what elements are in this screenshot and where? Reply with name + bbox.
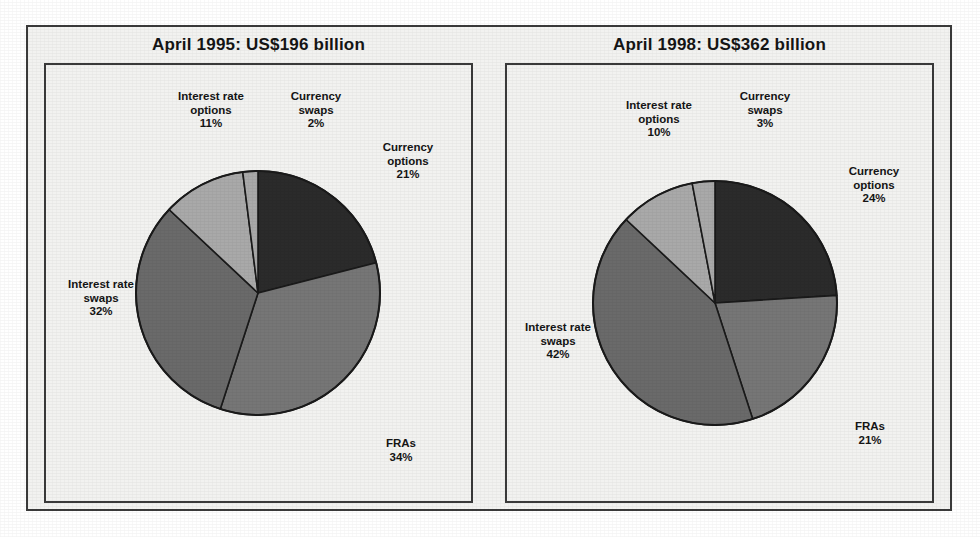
outer-frame: April 1995: US$196 billion Interest rate… bbox=[26, 25, 952, 511]
pie-label-interest-rate-swaps-1998: Interest rate swaps 42% bbox=[509, 321, 607, 362]
pie-chart-1998: Interest rate options 10% Currency swaps… bbox=[507, 65, 932, 501]
chart-plot-box-1998: Interest rate options 10% Currency swaps… bbox=[505, 63, 934, 503]
pie-label-interest-rate-options-1995: Interest rate options 11% bbox=[159, 90, 263, 131]
pie-chart-1995: Interest rate options 11% Currency swaps… bbox=[46, 65, 471, 501]
pie-label-currency-swaps-1995: Currency swaps 2% bbox=[274, 90, 358, 131]
pie-label-fras-1998: FRAs 21% bbox=[835, 420, 905, 447]
chart-panel-1998: April 1998: US$362 billion Interest rate… bbox=[489, 27, 950, 513]
pie-label-interest-rate-swaps-1995: Interest rate swaps 32% bbox=[52, 278, 150, 319]
chart-panel-1995: April 1995: US$196 billion Interest rate… bbox=[28, 27, 489, 513]
pie-label-currency-options-1998: Currency options 24% bbox=[829, 165, 919, 206]
chart-title-1998: April 1998: US$362 billion bbox=[489, 35, 950, 55]
chart-plot-box-1995: Interest rate options 11% Currency swaps… bbox=[44, 63, 473, 503]
chart-title-1995: April 1995: US$196 billion bbox=[28, 35, 489, 55]
pie-label-currency-options-1995: Currency options 21% bbox=[363, 141, 453, 182]
pie-slice-currency-options bbox=[715, 181, 837, 303]
pie-label-interest-rate-options-1998: Interest rate options 10% bbox=[607, 99, 711, 140]
pie-label-fras-1995: FRAs 34% bbox=[366, 437, 436, 464]
figure-root: April 1995: US$196 billion Interest rate… bbox=[0, 0, 980, 537]
pie-label-currency-swaps-1998: Currency swaps 3% bbox=[723, 90, 807, 131]
